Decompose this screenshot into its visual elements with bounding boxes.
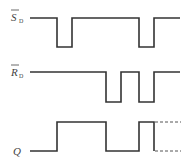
waveform-rd bbox=[30, 72, 180, 102]
signal-label-rd: R D bbox=[10, 65, 24, 79]
label-subscript: D bbox=[19, 18, 24, 24]
waveform-sd bbox=[30, 18, 180, 47]
signal-label-q: Q bbox=[13, 145, 21, 157]
timing-diagram: S D R D Q bbox=[0, 0, 194, 168]
label-subscript: D bbox=[19, 73, 24, 79]
label-text: S bbox=[11, 11, 17, 23]
waveform-q bbox=[30, 122, 154, 151]
label-text: R bbox=[10, 66, 18, 78]
label-text: Q bbox=[13, 145, 21, 157]
signal-label-sd: S D bbox=[11, 10, 24, 24]
